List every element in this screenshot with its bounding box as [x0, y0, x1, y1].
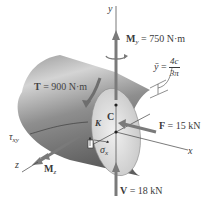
x-axis-label: x	[188, 146, 192, 156]
point-C-label: C	[107, 112, 114, 122]
z-axis-label: z	[15, 160, 19, 170]
My-arrowhead	[112, 30, 120, 40]
point-C-dot	[114, 130, 117, 133]
Mz-label: Mz	[44, 164, 56, 176]
point-K-label: K	[95, 119, 101, 128]
diagram-graphics	[0, 0, 209, 200]
shaft-free-body-diagram: y My = 750 N·m ȳ = 4c3π T = 900 N·m C K …	[0, 0, 209, 200]
Mz-sub: z	[53, 168, 56, 176]
My-label: My = 750 N·m	[126, 34, 185, 46]
z-axis-line	[22, 162, 38, 172]
F-value: = 15 kN	[165, 120, 200, 131]
tau-sub: xy	[13, 136, 19, 144]
fraction-numerator: 4c	[169, 57, 180, 68]
My-value: = 750 N·m	[139, 33, 185, 44]
centroid-eq: =	[158, 61, 169, 72]
element-K	[88, 140, 93, 148]
T-label: T = 900 N·m	[34, 82, 87, 92]
fraction-denominator: 3π	[170, 68, 179, 78]
T-symbol: T	[34, 81, 41, 92]
sigma-x-label: σx	[100, 145, 108, 157]
F-label: F = 15 kN	[159, 121, 200, 131]
tau-xy-label: τxy	[9, 132, 19, 144]
centroid-dot	[114, 103, 117, 106]
y-axis-label: y	[108, 4, 112, 14]
V-label: V = 18 kN	[120, 186, 163, 196]
sigma-sub: x	[105, 149, 108, 157]
T-value: = 900 N·m	[41, 81, 87, 92]
centroid-fraction: 4c3π	[169, 57, 180, 78]
V-value: = 18 kN	[127, 185, 162, 196]
centroid-label: ȳ = 4c3π	[154, 57, 180, 78]
